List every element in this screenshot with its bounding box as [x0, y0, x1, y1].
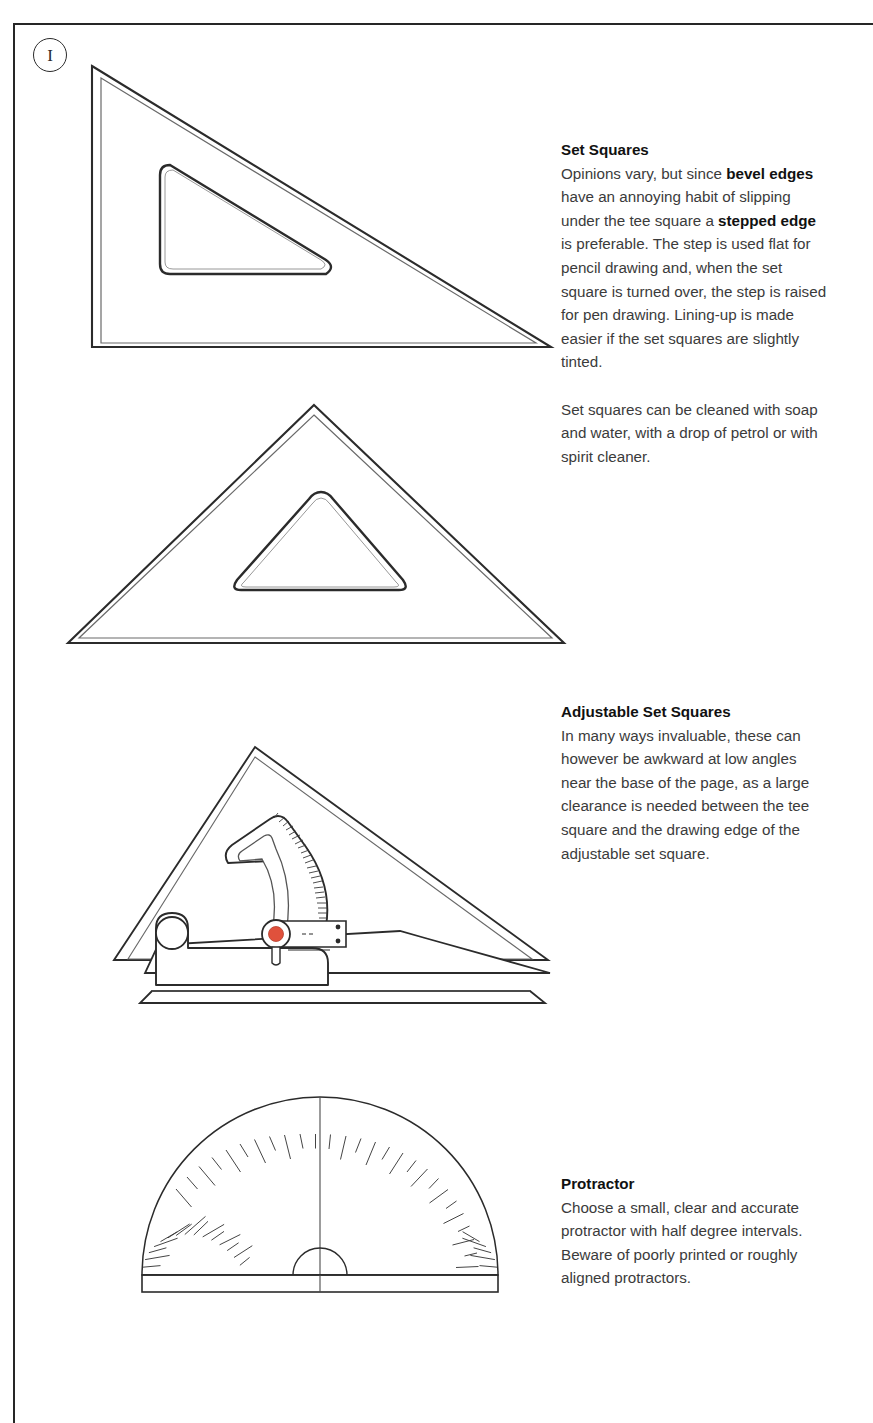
section-body-protractor: Choose a small, clear and accurate protr…: [561, 1196, 829, 1290]
body-text: Opinions vary, but since: [561, 165, 726, 182]
paragraph: Opinions vary, but since bevel edges hav…: [561, 162, 829, 374]
section-heading-adjustable-set-squares: Adjustable Set Squares: [561, 700, 829, 724]
figure-adjustable-set-square: [100, 735, 560, 1015]
page-number-badge: I: [33, 38, 67, 72]
section-adjustable-set-squares: Adjustable Set Squares In many ways inva…: [561, 700, 829, 865]
adjustable-set-square-drawing: [100, 735, 560, 1015]
emphasis-text: bevel edges: [726, 165, 813, 182]
figure-protractor: [130, 1085, 510, 1300]
section-body-set-squares: Opinions vary, but since bevel edges hav…: [561, 162, 829, 469]
section-body-adjustable-set-squares: In many ways invaluable, these can howev…: [561, 724, 829, 866]
page-number-label: I: [47, 47, 53, 64]
body-text: Choose a small, clear and accurate protr…: [561, 1199, 802, 1287]
set-square-45-45-drawing: [63, 400, 573, 650]
section-heading-protractor: Protractor: [561, 1172, 829, 1196]
set-square-60-30-drawing: [88, 62, 558, 352]
paragraph: Choose a small, clear and accurate protr…: [561, 1196, 829, 1290]
emphasis-text: stepped edge: [718, 212, 816, 229]
body-text: In many ways invaluable, these can howev…: [561, 727, 809, 862]
bracket-rivet-top: [336, 925, 341, 930]
locking-peg: [272, 947, 280, 965]
section-protractor: Protractor Choose a small, clear and acc…: [561, 1172, 829, 1290]
lower-straight-edge: [140, 991, 545, 1003]
figure-set-square-45-45: [63, 400, 573, 650]
housing-knob-hole: [156, 917, 188, 949]
protractor-drawing: [130, 1085, 510, 1300]
paragraph: Set squares can be cleaned with soap and…: [561, 398, 829, 469]
section-set-squares: Set Squares Opinions vary, but since bev…: [561, 138, 829, 468]
body-text: is preferable. The step is used flat for…: [561, 235, 826, 370]
pivot-knob-red: [269, 927, 284, 942]
body-text: Set squares can be cleaned with soap and…: [561, 401, 818, 465]
bracket-rivet-bottom: [336, 939, 341, 944]
section-heading-set-squares: Set Squares: [561, 138, 829, 162]
paragraph: In many ways invaluable, these can howev…: [561, 724, 829, 866]
figure-set-square-60-30: [88, 62, 558, 352]
